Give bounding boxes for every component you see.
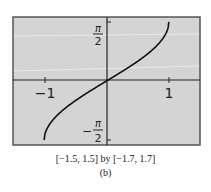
y-label-pi: π: [95, 23, 102, 34]
y-label-two: 2: [95, 35, 102, 48]
arcsin-chart: −1 1 π 2 − π 2: [0, 0, 211, 152]
x-tick-label-neg1: −1: [35, 85, 56, 101]
y-label-pi-neg: π: [95, 118, 102, 129]
y-label-two-neg: 2: [95, 132, 102, 145]
window-caption: [−1.5, 1.5] by [−1.7, 1.7]: [0, 153, 211, 164]
x-tick-label-1: 1: [165, 85, 174, 101]
y-label-minus: −: [82, 124, 92, 138]
figure-label: (b): [0, 167, 211, 178]
